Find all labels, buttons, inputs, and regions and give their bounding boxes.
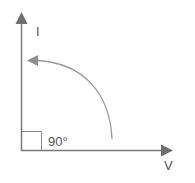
right-angle-marker bbox=[22, 132, 42, 151]
phasor-diagram: I V 90° bbox=[0, 0, 195, 183]
y-axis-label: I bbox=[36, 24, 40, 39]
x-axis-label: V bbox=[164, 158, 173, 173]
arc-arrowhead-icon bbox=[27, 55, 38, 66]
x-axis-arrowhead-icon bbox=[161, 145, 173, 157]
angle-label: 90° bbox=[48, 134, 68, 149]
rotation-arc bbox=[37, 61, 112, 140]
y-axis-arrowhead-icon bbox=[16, 12, 28, 24]
